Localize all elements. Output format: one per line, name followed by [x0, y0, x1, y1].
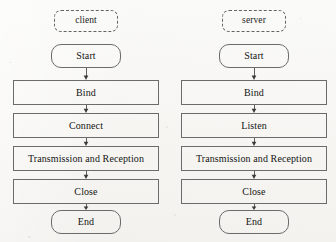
client-node-bind[interactable]: Bind [13, 80, 159, 105]
client-node-end[interactable]: End [51, 210, 121, 234]
client-node-close-label: Close [74, 187, 97, 197]
server-node-end[interactable]: End [219, 210, 289, 234]
flowchart-diagram: client Start Bind Connect Transmission a… [0, 0, 336, 242]
client-node-transmission[interactable]: Transmission and Reception [13, 146, 159, 171]
scan-speckle [9, 62, 11, 63]
client-arrow-transmission-to-close [82, 171, 91, 179]
server-header-pill: server [222, 10, 286, 32]
server-node-transmission[interactable]: Transmission and Reception [181, 146, 327, 171]
client-column: client Start Bind Connect Transmission a… [13, 0, 159, 242]
server-node-transmission-label: Transmission and Reception [196, 154, 312, 164]
server-arrow-start-to-bind [250, 68, 259, 80]
server-node-bind-label: Bind [244, 88, 264, 98]
client-arrow-start-to-bind [82, 68, 91, 80]
server-node-listen-label: Listen [241, 121, 267, 131]
client-arrow-connect-to-transmission [82, 138, 91, 146]
server-header-label: server [242, 16, 266, 26]
client-node-start-label: Start [76, 51, 95, 61]
client-node-bind-label: Bind [76, 88, 96, 98]
scan-speckle [166, 126, 168, 128]
server-arrow-bind-to-listen [250, 105, 259, 113]
server-arrow-listen-to-transmission [250, 138, 259, 146]
client-header-label: client [75, 16, 97, 26]
server-node-bind[interactable]: Bind [181, 80, 327, 105]
client-node-end-label: End [78, 217, 94, 227]
client-node-transmission-label: Transmission and Reception [28, 154, 144, 164]
server-node-start[interactable]: Start [219, 44, 289, 68]
server-column: server Start Bind Listen Transmission an… [181, 0, 327, 242]
client-arrow-bind-to-connect [82, 105, 91, 113]
client-header-pill: client [54, 10, 118, 32]
server-node-close-label: Close [242, 187, 265, 197]
scan-speckle [174, 214, 176, 216]
client-node-start[interactable]: Start [51, 44, 121, 68]
server-node-close[interactable]: Close [181, 179, 327, 204]
client-node-connect[interactable]: Connect [13, 113, 159, 138]
server-node-end-label: End [246, 217, 262, 227]
client-node-close[interactable]: Close [13, 179, 159, 204]
client-node-connect-label: Connect [69, 121, 103, 131]
server-arrow-transmission-to-close [250, 171, 259, 179]
server-node-listen[interactable]: Listen [181, 113, 327, 138]
server-node-start-label: Start [244, 51, 263, 61]
